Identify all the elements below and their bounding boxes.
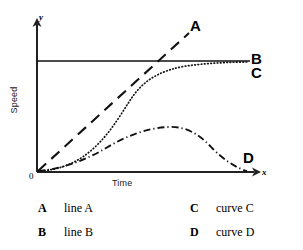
legend: A line A C curve C B line B D curve D	[0, 196, 303, 250]
speed-time-figure: y x 0 Speed Time A B C D A line A C curv…	[0, 0, 303, 250]
y-axis-variable-label: y	[39, 12, 43, 22]
series-curve-d	[38, 127, 247, 171]
legend-item-b: B line B	[38, 220, 178, 244]
legend-key-a: A	[38, 201, 64, 216]
series-curve-c	[38, 62, 249, 171]
series-line-a	[38, 33, 189, 171]
x-axis-variable-label: x	[262, 167, 267, 177]
legend-label-c: curve C	[216, 201, 254, 216]
legend-item-d: D curve D	[190, 220, 303, 244]
legend-label-b: line B	[64, 225, 93, 240]
origin-label: 0	[29, 171, 34, 181]
legend-key-b: B	[38, 225, 64, 240]
legend-row: A line A C curve C	[0, 196, 303, 220]
legend-label-d: curve D	[216, 225, 254, 240]
legend-key-d: D	[190, 225, 216, 240]
legend-row: B line B D curve D	[0, 220, 303, 244]
legend-item-c: C curve C	[190, 196, 303, 220]
y-axis-title: Speed	[9, 77, 19, 123]
curve-tag-a: A	[190, 18, 201, 33]
x-axis-title: Time	[112, 178, 132, 188]
curve-tag-c: C	[251, 65, 262, 80]
legend-key-c: C	[190, 201, 216, 216]
x-axis	[37, 168, 261, 177]
y-axis	[33, 18, 42, 172]
legend-label-a: line A	[64, 201, 93, 216]
legend-item-a: A line A	[38, 196, 178, 220]
curve-tag-d: D	[243, 150, 254, 165]
